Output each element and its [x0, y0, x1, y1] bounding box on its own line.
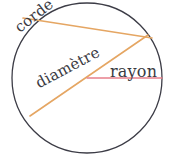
circle-geometry-diagram: corde diamètre rayon: [0, 0, 170, 158]
radius-label: rayon: [110, 64, 157, 80]
chord-line: [23, 18, 152, 38]
